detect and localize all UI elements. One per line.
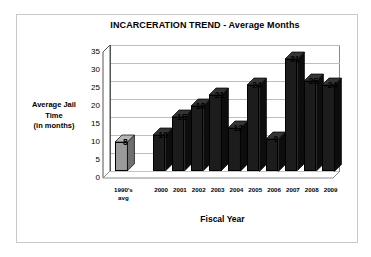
x-axis-tick-label: 2009 <box>318 186 344 194</box>
bar[interactable] <box>172 117 184 171</box>
bar-value-label: 24 <box>244 81 270 90</box>
bar[interactable] <box>322 85 334 171</box>
y-axis-tick-label: 5 <box>78 156 100 164</box>
bar[interactable] <box>285 59 297 171</box>
plot-area: 81015182112249312524 <box>103 45 340 178</box>
bar-series: 81015182112249312524 <box>103 45 340 178</box>
bar-value-label: 31 <box>282 55 308 64</box>
bar-value-label: 24 <box>319 81 345 90</box>
x-axis-tick-label-line: avg <box>110 194 136 202</box>
y-axis-tick-label: 25 <box>78 84 100 92</box>
bar-3d-faces <box>322 78 341 171</box>
y-axis-tick-label: 10 <box>78 138 100 146</box>
chart-screenshot: INCARCERATION TREND - Average Months Ave… <box>0 0 371 257</box>
x-axis-tick-label-line: 2009 <box>318 186 344 194</box>
y-axis-tick-label: 20 <box>78 102 100 110</box>
bar-value-label: 8 <box>112 138 138 147</box>
x-axis-tick-labels: 1990'savg2000200120022003200420052006200… <box>103 186 348 210</box>
bar[interactable] <box>228 128 240 171</box>
y-axis-tick-label: 15 <box>78 120 100 128</box>
bar[interactable] <box>247 85 259 171</box>
bar-value-label: 21 <box>206 91 232 100</box>
x-axis-tick-label-line: 1990's <box>110 186 136 194</box>
bar-3d-faces <box>285 52 304 171</box>
bar[interactable] <box>191 106 203 171</box>
bar[interactable] <box>304 81 316 171</box>
y-axis-tick-label: 30 <box>78 66 100 74</box>
y-axis-tick-label: 0 <box>78 174 100 182</box>
bar[interactable] <box>153 135 165 171</box>
bar[interactable] <box>209 95 221 171</box>
bar-3d-faces <box>247 78 266 171</box>
x-axis-tick-label: 1990'savg <box>110 186 136 201</box>
chart-title: INCARCERATION TREND - Average Months <box>60 20 350 30</box>
x-axis-title: Fiscal Year <box>100 214 345 224</box>
y-axis-tick-labels: 05101520253035 <box>76 45 100 185</box>
y-axis-tick-label: 35 <box>78 48 100 56</box>
